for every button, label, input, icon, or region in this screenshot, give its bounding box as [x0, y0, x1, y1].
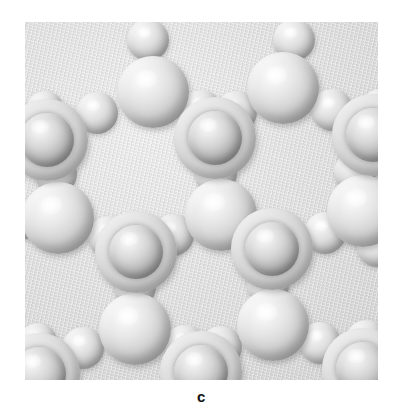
atom-sphere-ringed — [95, 211, 177, 293]
atom-sphere-large — [247, 52, 319, 124]
atom-sphere-large — [25, 182, 94, 254]
figure-root: c — [0, 0, 397, 419]
atom-sphere-large — [237, 289, 309, 361]
structure-image-panel — [25, 22, 378, 380]
panel-caption-label: c — [25, 384, 378, 410]
atom-sphere-ringed — [174, 97, 256, 179]
atom-sphere-large — [99, 293, 171, 365]
atom-layer — [25, 22, 378, 380]
atom-sphere-small — [127, 22, 169, 61]
atom-sphere-ringed — [231, 208, 313, 290]
